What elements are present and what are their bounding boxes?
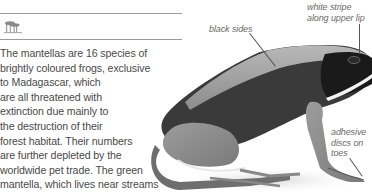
- label-adhesive-discs: adhesive discs on toes: [331, 127, 366, 159]
- top-divider: [0, 13, 182, 14]
- label-black-sides: black sides: [209, 24, 252, 35]
- label-white-stripe: white stripe along upper lip: [307, 2, 365, 23]
- frog-illustration: [150, 40, 372, 194]
- leader-line-white-stripe: [359, 24, 360, 54]
- forest-habitat-icon: [4, 20, 22, 34]
